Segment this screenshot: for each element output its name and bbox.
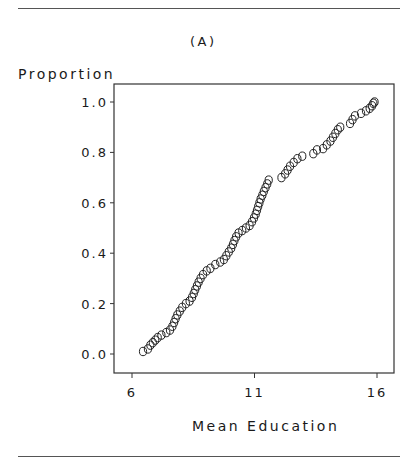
- data-points: [139, 98, 378, 356]
- data-point-circle: [337, 123, 344, 131]
- x-tick-label: 11: [244, 385, 265, 400]
- data-point-circle: [139, 347, 146, 355]
- data-point-circle: [357, 109, 364, 117]
- x-tick-label: 6: [127, 385, 137, 400]
- y-tick-label: 0.2: [81, 297, 108, 312]
- x-axis-ticks: 61116: [127, 373, 387, 400]
- scatter-plot: 0.00.20.40.60.81.0 61116: [0, 0, 416, 459]
- y-tick-label: 1.0: [81, 95, 108, 110]
- data-point-circle: [299, 152, 306, 160]
- y-tick-label: 0.8: [81, 145, 108, 160]
- y-tick-label: 0.6: [81, 196, 108, 211]
- y-tick-label: 0.4: [81, 246, 108, 261]
- x-tick-label: 16: [367, 385, 388, 400]
- y-tick-label: 0.0: [81, 347, 108, 362]
- y-axis-ticks: 0.00.20.40.60.81.0: [81, 95, 114, 362]
- data-point-circle: [149, 338, 156, 346]
